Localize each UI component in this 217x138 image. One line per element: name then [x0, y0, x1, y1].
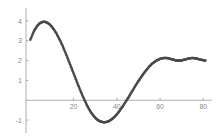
x-tick-label: 80 [199, 103, 207, 110]
x-tick-label: 20 [70, 103, 78, 110]
y-tick-label: 2 [18, 57, 22, 64]
y-tick-label: 1 [18, 77, 22, 84]
data-point [204, 59, 207, 62]
y-tick-label: 4 [18, 18, 22, 25]
x-tick-label: 60 [156, 103, 164, 110]
y-tick-label: -1 [16, 117, 22, 124]
scatter-plot: 20406080-11234 [0, 0, 217, 138]
axes-group [26, 8, 212, 133]
y-tick-label: 3 [18, 37, 22, 44]
chart-container: 20406080-11234 [0, 0, 217, 138]
tick-labels-group: 20406080-11234 [16, 18, 208, 124]
